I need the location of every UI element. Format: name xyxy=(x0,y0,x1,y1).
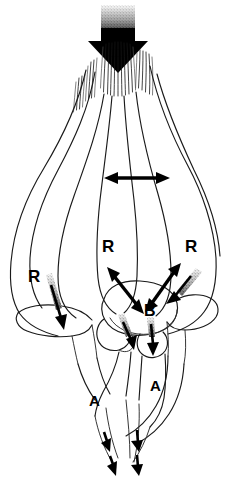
label-r-left: R xyxy=(28,268,40,285)
left-descending-arrow xyxy=(46,273,67,330)
outflow-arrow-3 xyxy=(107,456,117,476)
label-a-left: A xyxy=(89,393,100,408)
label-b-center: B xyxy=(144,303,156,319)
right-transverse-process xyxy=(167,295,218,364)
left-transverse-process xyxy=(16,305,97,364)
oblique-double-arrow-left xyxy=(107,267,144,314)
horizontal-double-arrow xyxy=(104,172,170,184)
anatomy-figure: R R R B A A xyxy=(0,0,230,479)
outflow-arrow-4 xyxy=(131,455,143,476)
label-a-right: A xyxy=(150,378,161,393)
label-r-center: R xyxy=(102,238,114,255)
label-r-right: R xyxy=(185,238,197,255)
pedicle-arrow-right xyxy=(147,317,159,356)
